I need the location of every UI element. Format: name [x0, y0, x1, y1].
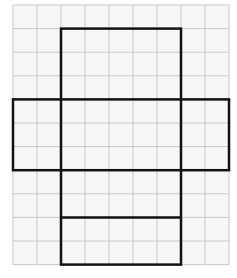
- grid-background: [13, 5, 229, 265]
- grid-net-diagram: [0, 0, 237, 278]
